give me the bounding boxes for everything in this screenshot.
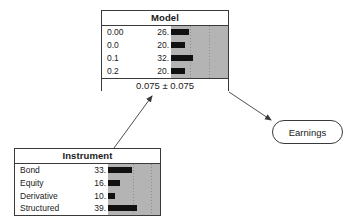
instrument-row-4-label: Structured [15, 204, 78, 213]
instrument-node-body: Bond 33. Equity 16. Derivative 10. [15, 164, 160, 215]
edge-model-to-earnings [229, 92, 271, 120]
model-row-1[interactable]: 0.00 26. [102, 26, 228, 39]
instrument-row-1-bar [108, 167, 132, 173]
instrument-row-3-value: 10. [78, 192, 108, 201]
model-row-4[interactable]: 0.2 20. [102, 65, 228, 78]
instrument-row-1[interactable]: Bond 33. [15, 164, 160, 177]
model-row-3-value: 32. [142, 54, 171, 63]
model-row-2[interactable]: 0.0 20. [102, 39, 228, 52]
instrument-row-1-label: Bond [15, 166, 78, 175]
edge-instrument-to-model [114, 96, 152, 148]
earnings-node[interactable]: Earnings [272, 120, 343, 144]
model-row-1-bar [171, 29, 189, 35]
earnings-node-label: Earnings [289, 127, 327, 138]
model-row-1-label: 0.00 [102, 28, 142, 37]
instrument-row-2-label: Equity [15, 179, 78, 188]
instrument-node[interactable]: Instrument Bond 33. Equity 16. [14, 148, 161, 216]
model-node-footer: 0.075 ± 0.075 [102, 78, 228, 91]
instrument-row-2[interactable]: Equity 16. [15, 177, 160, 190]
model-row-2-value: 20. [142, 41, 171, 50]
diagram-canvas: Model 0.00 26. 0.0 20. 0. [0, 0, 353, 222]
model-row-4-value: 20. [142, 67, 171, 76]
model-node[interactable]: Model 0.00 26. 0.0 20. 0. [101, 10, 229, 91]
model-row-1-bar-track [171, 26, 228, 39]
model-row-2-bar-track [171, 39, 228, 52]
model-row-3-bar-track [171, 52, 228, 65]
instrument-row-2-bar [108, 180, 120, 186]
model-row-4-bar-track [171, 65, 228, 78]
model-node-body: 0.00 26. 0.0 20. 0.1 32. [102, 26, 228, 78]
instrument-row-3[interactable]: Derivative 10. [15, 190, 160, 203]
model-row-4-bar [171, 68, 185, 74]
instrument-row-1-value: 33. [78, 166, 108, 175]
instrument-row-4-bar-track [108, 202, 160, 215]
instrument-node-title: Instrument [15, 149, 160, 164]
model-row-2-label: 0.0 [102, 41, 142, 50]
model-row-3[interactable]: 0.1 32. [102, 52, 228, 65]
instrument-row-3-bar-track [108, 190, 160, 203]
model-row-4-label: 0.2 [102, 67, 142, 76]
model-row-2-bar [171, 42, 185, 48]
instrument-row-3-label: Derivative [15, 192, 78, 201]
model-node-title: Model [102, 11, 228, 26]
instrument-row-3-bar [108, 193, 115, 199]
instrument-row-2-bar-track [108, 177, 160, 190]
instrument-row-4[interactable]: Structured 39. [15, 202, 160, 215]
instrument-row-1-bar-track [108, 164, 160, 177]
instrument-row-4-value: 39. [78, 204, 108, 213]
model-row-3-label: 0.1 [102, 54, 142, 63]
instrument-row-2-value: 16. [78, 179, 108, 188]
model-row-3-bar [171, 55, 193, 61]
model-row-1-value: 26. [142, 28, 171, 37]
instrument-row-4-bar [108, 205, 137, 211]
